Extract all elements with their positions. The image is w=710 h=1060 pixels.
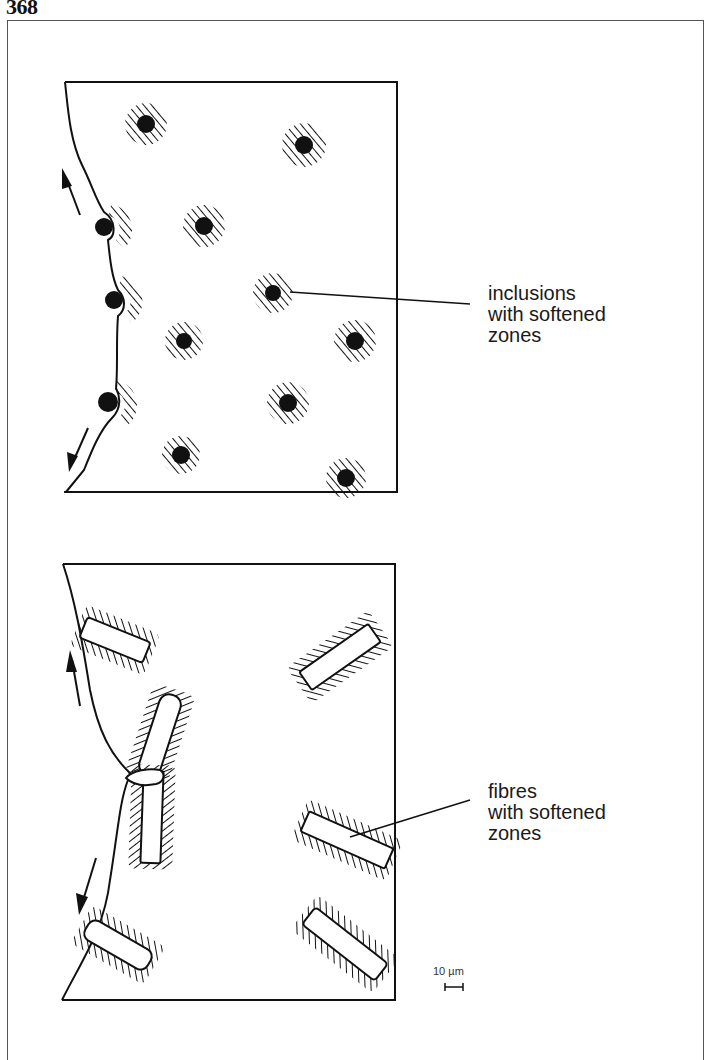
inclusions-interior bbox=[125, 103, 376, 498]
inclusions-label-line-3: zones bbox=[488, 325, 606, 346]
fibres-label-line-2: with softened bbox=[488, 802, 606, 823]
inclusions-label: inclusions with softened zones bbox=[488, 283, 606, 346]
arrow-up-icon bbox=[62, 168, 80, 215]
arrow-up-icon bbox=[66, 650, 80, 706]
scale-bar bbox=[445, 983, 463, 991]
bottom-panel bbox=[62, 564, 470, 1000]
inclusions-leader-line bbox=[290, 292, 470, 304]
scale-bar-label: 10 µm bbox=[433, 965, 464, 977]
inclusions-on-crack bbox=[95, 210, 136, 422]
crack-edge bbox=[65, 82, 124, 492]
arrow-down-icon bbox=[76, 858, 96, 915]
fibres-label-line-1: fibres bbox=[488, 781, 606, 802]
inclusions-label-line-2: with softened bbox=[488, 304, 606, 325]
fibres-label-line-3: zones bbox=[488, 823, 606, 844]
top-panel bbox=[62, 82, 470, 498]
inclusions-label-line-1: inclusions bbox=[488, 283, 606, 304]
fibres bbox=[70, 605, 404, 994]
fibres-leader-line bbox=[350, 800, 470, 837]
fibres-label: fibres with softened zones bbox=[488, 781, 606, 844]
